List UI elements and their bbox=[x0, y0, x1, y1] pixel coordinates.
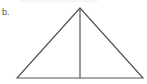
triangle-diagram bbox=[0, 0, 147, 84]
